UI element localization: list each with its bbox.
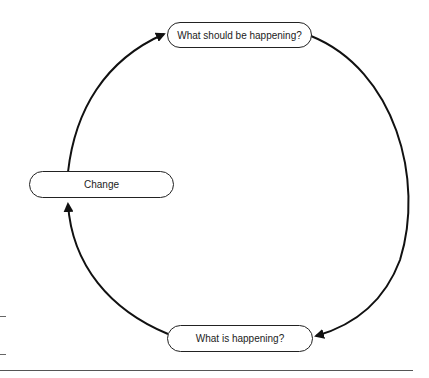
arrow-change-to-should: [68, 34, 164, 172]
node-label: Change: [84, 179, 119, 190]
node-what-is-happening: What is happening?: [167, 325, 313, 352]
arrow-is-to-change: [68, 204, 168, 334]
margin-tick: [0, 354, 6, 355]
node-change: Change: [29, 171, 174, 198]
margin-tick: [0, 316, 6, 317]
bottom-rule: [0, 370, 413, 371]
node-what-should-be-happening: What should be happening?: [167, 22, 312, 48]
node-label: What is happening?: [196, 333, 284, 344]
node-label: What should be happening?: [177, 30, 302, 41]
arrow-should-to-is: [311, 36, 409, 336]
